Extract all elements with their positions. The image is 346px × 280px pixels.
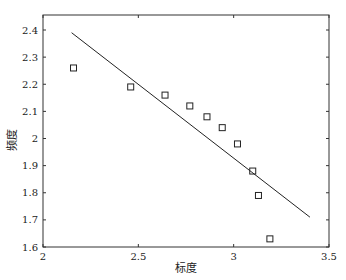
y-tick-label: 1.8 <box>22 187 38 198</box>
y-tick-label: 2.3 <box>22 52 38 63</box>
x-tick-label: 3 <box>230 251 236 262</box>
x-tick-label: 3.5 <box>321 251 337 262</box>
y-tick-label: 1.6 <box>22 242 38 253</box>
y-axis-label: 频度 <box>5 129 19 151</box>
plot-area <box>43 15 329 247</box>
y-tick-label: 2.4 <box>22 25 38 36</box>
y-tick-label: 1.7 <box>22 214 38 225</box>
scatter-chart: 1.61.71.81.922.12.22.32.4 22.533.5 标度 频度 <box>0 0 346 280</box>
x-tick-label: 2.5 <box>130 251 146 262</box>
y-tick-label: 1.9 <box>22 160 38 171</box>
x-tick-label: 2 <box>40 251 46 262</box>
y-tick-label: 2.1 <box>22 106 38 117</box>
y-tick-label: 2.2 <box>22 79 38 90</box>
x-axis-label: 标度 <box>175 261 197 275</box>
y-tick-label: 2 <box>32 133 38 144</box>
